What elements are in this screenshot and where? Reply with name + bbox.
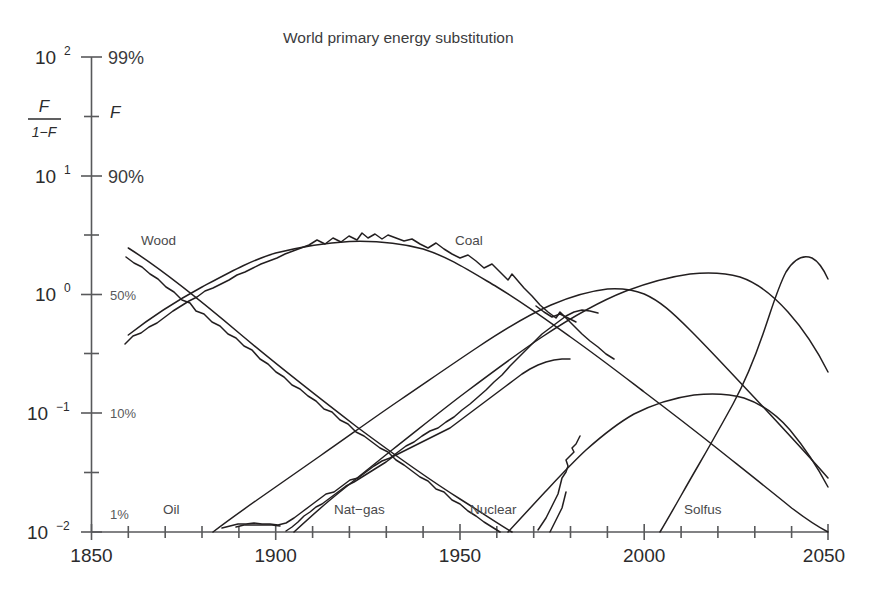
y-pct-label-50: 50% (110, 288, 136, 303)
y-axis-title-right: F (110, 103, 122, 122)
y-axis-title-fraction: F 1−F (28, 97, 61, 140)
y-tick-label-1e1: 10 (35, 166, 56, 187)
y-tick-label-1em1: 10 (27, 403, 48, 424)
curve-wood (128, 248, 512, 532)
x-axis-ticks (92, 524, 829, 540)
curve-oil (213, 289, 828, 532)
curve-nuclear (508, 394, 828, 532)
series-label-oil: Oil (163, 502, 180, 517)
chart-svg: World primary energy substitution 10 2 1… (0, 0, 874, 600)
observed-nuclear (538, 436, 580, 530)
x-tick-label-1850: 1850 (70, 545, 112, 566)
y-pct-label-1: 1% (110, 507, 129, 522)
y-tick-label-1e0: 10 (35, 284, 56, 305)
y-tick-exp-1e0: 0 (64, 281, 71, 295)
curve-solfus (660, 257, 828, 532)
observed-natgas (286, 359, 570, 531)
curve-coal (128, 241, 828, 532)
y-tick-exp-1em2: −2 (56, 519, 70, 533)
y-axis-title-denominator: 1−F (32, 124, 58, 140)
y-pct-label-10: 10% (110, 406, 136, 421)
x-tick-label-1950: 1950 (439, 545, 481, 566)
y-tick-label-1em2: 10 (27, 522, 48, 543)
x-tick-label-2050: 2050 (803, 545, 845, 566)
observed-oil-plateau (236, 525, 280, 527)
series-labels: Wood Coal Oil Nat−gas Nuclear Solfus (141, 233, 722, 517)
y-pct-label-90: 90% (108, 167, 144, 187)
series-label-solfus: Solfus (684, 502, 722, 517)
observed-nuclear-branch (550, 492, 566, 532)
y-tick-exp-1e2: 2 (64, 44, 71, 58)
series-label-coal: Coal (455, 233, 483, 248)
curve-natgas (294, 273, 828, 532)
chart-title: World primary energy substitution (283, 29, 514, 46)
y-tick-exp-1e1: 1 (64, 163, 71, 177)
y-tick-label-1e2: 10 (35, 47, 56, 68)
y-axis-title-numerator: F (39, 97, 51, 116)
observed-coal (125, 233, 614, 359)
x-axis-labels: 1850 1900 1950 2000 2050 (70, 545, 845, 566)
series-observed-data (125, 233, 614, 532)
x-tick-label-2000: 2000 (623, 545, 665, 566)
series-label-nuclear: Nuclear (470, 502, 517, 517)
series-label-natgas: Nat−gas (334, 502, 385, 517)
y-tick-exp-1em1: −1 (56, 400, 70, 414)
y-pct-label-99: 99% (108, 48, 144, 68)
series-curves (128, 241, 828, 532)
x-tick-label-1900: 1900 (255, 545, 297, 566)
chart-figure: World primary energy substitution 10 2 1… (0, 0, 874, 600)
series-label-wood: Wood (141, 233, 176, 248)
